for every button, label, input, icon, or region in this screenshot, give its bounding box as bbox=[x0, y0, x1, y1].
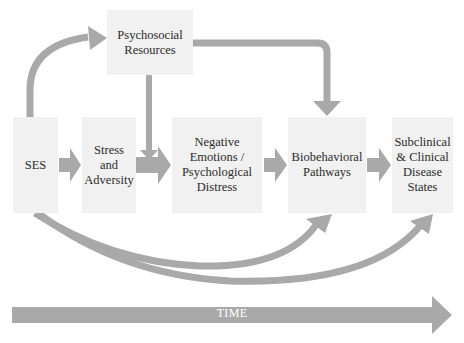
node-label-line: Emotions / bbox=[190, 150, 245, 164]
arrow-negative-to-biobehavioral bbox=[264, 148, 287, 182]
node-psychosocial-resources: PsychosocialResources bbox=[107, 10, 193, 75]
node-negative-emotions: NegativeEmotions /PsychologicalDistress bbox=[172, 117, 262, 213]
node-label-line: States bbox=[408, 180, 438, 194]
node-label-line: Distress bbox=[197, 180, 237, 194]
arrow-biobehavioral-to-disease bbox=[367, 148, 391, 182]
node-label-line: Disease bbox=[403, 165, 442, 179]
node-disease-states: Subclinical& ClinicalDiseaseStates bbox=[392, 117, 453, 213]
node-label-line: Adversity bbox=[84, 173, 133, 187]
arrow-psychosocial-to-biobehavioral bbox=[193, 43, 327, 102]
arrow-ses-to-psychosocial bbox=[30, 37, 88, 117]
node-stress-adversity: Stress andAdversity bbox=[82, 117, 136, 213]
node-label-line: Subclinical bbox=[394, 135, 450, 149]
node-label-line: & Clinical bbox=[396, 150, 448, 164]
arrow-ses-to-stress bbox=[59, 148, 81, 182]
node-label-line: Psychosocial bbox=[117, 28, 182, 42]
arrow-ses-to-disease bbox=[38, 213, 420, 281]
node-label-line: Stress and bbox=[94, 143, 124, 172]
node-label-line: Biobehavioral bbox=[292, 150, 363, 164]
arrow-psychosocial-to-negative bbox=[146, 75, 152, 151]
node-ses: SES bbox=[13, 117, 58, 213]
node-label-line: Psychological bbox=[182, 165, 252, 179]
node-label-line: Negative bbox=[194, 135, 239, 149]
node-label-line: Resources bbox=[124, 43, 175, 57]
arrowhead-ses-to-psychosocial bbox=[88, 26, 107, 50]
node-label-line: Pathways bbox=[303, 165, 351, 179]
node-biobehavioral-pathways: BiobehavioralPathways bbox=[288, 117, 366, 213]
arrowhead-psychosocial-to-biobehavioral bbox=[313, 101, 341, 116]
node-label: SES bbox=[25, 158, 47, 173]
time-label: TIME bbox=[0, 306, 464, 321]
